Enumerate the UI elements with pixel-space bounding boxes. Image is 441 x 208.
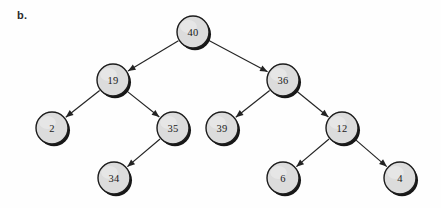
edge-arrowhead [66, 110, 74, 117]
tree-edge [66, 91, 100, 118]
tree-node-4[interactable]: 4 [384, 162, 418, 196]
node-label: 2 [49, 123, 55, 134]
tree-edge [208, 40, 268, 72]
tree-edge [296, 91, 328, 117]
edge-arrowhead [236, 110, 244, 117]
node-label: 34 [108, 173, 120, 184]
binary-tree-diagram: 40193623539123464 [0, 0, 441, 208]
node-label: 19 [107, 75, 118, 86]
edge-arrowhead [128, 64, 136, 71]
tree-edge [128, 41, 178, 71]
node-label: 12 [336, 123, 347, 134]
tree-edge [355, 139, 387, 166]
nodes-layer: 40193623539123464 [36, 16, 418, 196]
tree-node-19[interactable]: 19 [97, 64, 131, 98]
node-label: 4 [397, 173, 403, 184]
tree-node-12[interactable]: 12 [326, 112, 360, 146]
node-label: 35 [167, 123, 178, 134]
tree-node-34[interactable]: 34 [98, 162, 132, 196]
tree-edge [296, 139, 329, 167]
node-label: 6 [280, 173, 286, 184]
tree-node-35[interactable]: 35 [157, 112, 191, 146]
tree-node-2[interactable]: 2 [36, 112, 70, 146]
tree-node-6[interactable]: 6 [267, 162, 301, 196]
tree-edge [126, 91, 159, 117]
tree-node-39[interactable]: 39 [206, 112, 240, 146]
tree-node-40[interactable]: 40 [177, 16, 211, 50]
tree-node-36[interactable]: 36 [267, 64, 301, 98]
edges-layer [66, 40, 387, 167]
edge-arrowhead [152, 110, 160, 117]
tree-edge [127, 139, 160, 167]
node-label: 39 [216, 123, 227, 134]
figure-container: b. 40193623539123464 [0, 0, 441, 208]
node-label: 40 [187, 27, 198, 38]
node-label: 36 [277, 75, 288, 86]
tree-edge [236, 91, 270, 118]
